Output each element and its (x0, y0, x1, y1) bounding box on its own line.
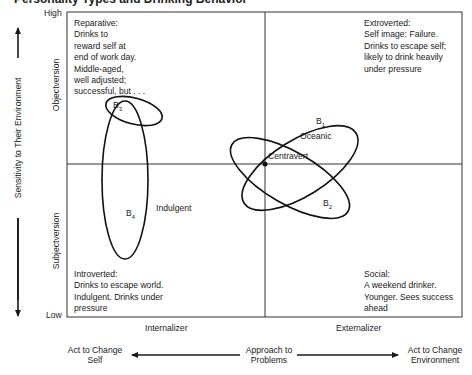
quadrant-introverted-note: Introverted: Drinks to escape world. Ind… (74, 269, 163, 315)
objectversion-label: Objectversion (51, 55, 61, 115)
act-to-change-environment-label: Act to Change Environment (398, 345, 472, 365)
cluster-b4-label: B4 (126, 208, 135, 220)
internalizer-label: Internalizer (145, 323, 188, 333)
quadrant-social-note: Social: A weekend drinker. Younger. Sees… (364, 269, 453, 315)
quadrant-extroverted-note: Extroverted: Self image: Failure. Drinks… (364, 18, 446, 75)
approach-to-problems-label: Approach to Problems (234, 345, 304, 365)
act-to-change-self-label: Act to Change Self (60, 345, 130, 365)
cluster-b2-ellipse (219, 122, 361, 234)
centravert-dot (263, 162, 268, 167)
y-axis-low-label: Low (46, 310, 62, 320)
cluster-b1-label: B1 (316, 116, 325, 128)
oceanic-label: Oceanic (300, 131, 332, 141)
subjectversion-label: Subjectversion (51, 209, 61, 273)
y-axis-title: Sensitivity to Their Environment (13, 58, 23, 218)
centravert-label: Centravert (268, 151, 308, 161)
quadrant-reparative-note: Reparative: Drinks to reward self at end… (74, 18, 145, 98)
cluster-b2-label: B2 (323, 198, 332, 210)
y-axis-high-label: High (44, 8, 62, 18)
cluster-b4-ellipse (102, 101, 148, 259)
cluster-b3-label: B3 (113, 100, 122, 112)
externalizer-label: Externalizer (336, 323, 381, 333)
indulgent-label: Indulgent (156, 203, 191, 213)
